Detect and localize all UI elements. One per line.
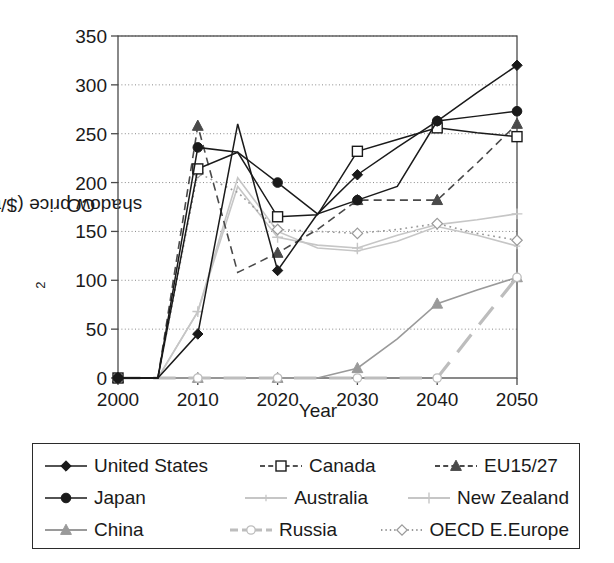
data-point	[273, 178, 283, 188]
legend-item-russia[interactable]: Russia	[228, 520, 379, 540]
data-point	[512, 208, 523, 219]
legend-item-united-states[interactable]: United States	[43, 456, 258, 476]
legend-marker	[276, 461, 286, 471]
legend-symbol	[43, 456, 89, 476]
data-point	[352, 228, 362, 238]
series-line	[118, 128, 517, 378]
y-tick-label-0: 0	[96, 368, 107, 389]
data-point	[273, 374, 281, 382]
legend-symbol	[243, 488, 289, 508]
data-point	[513, 273, 521, 281]
series-line	[118, 277, 517, 378]
legend-row: JapanAustraliaNew Zealand	[43, 482, 569, 514]
data-point	[193, 143, 203, 153]
data-point	[352, 146, 362, 156]
legend-symbol	[433, 456, 479, 476]
data-point	[192, 120, 203, 130]
y-tick-label-100: 100	[75, 270, 107, 291]
data-point	[194, 374, 202, 382]
legend-label: New Zealand	[457, 488, 569, 508]
data-point	[512, 60, 522, 70]
legend-marker	[61, 493, 71, 503]
y-tick-label-150: 150	[75, 221, 107, 242]
legend-item-eu15-27[interactable]: EU15/27	[433, 456, 558, 476]
series-canada	[113, 123, 522, 383]
legend-item-new-zealand[interactable]: New Zealand	[406, 488, 569, 508]
series-line	[118, 124, 517, 378]
y-tick-label-200: 200	[75, 173, 107, 194]
legend-label: China	[94, 520, 144, 540]
legend-item-australia[interactable]: Australia	[243, 488, 406, 508]
legend-marker	[396, 525, 406, 535]
plot-frame	[118, 36, 517, 378]
data-point	[512, 132, 522, 142]
legend-symbol	[43, 488, 89, 508]
legend-marker	[61, 461, 71, 471]
data-point	[352, 243, 363, 254]
data-point	[272, 265, 282, 275]
series-eu15-27	[113, 118, 523, 382]
plot-area-wrapper: CO2 shadow price ($/tC) 0501001502002503…	[0, 0, 614, 430]
legend-marker	[263, 495, 269, 501]
chart-legend: United StatesCanadaEU15/27JapanAustralia…	[32, 443, 580, 549]
legend-item-oecd-e-europe[interactable]: OECD E.Europe	[379, 520, 569, 540]
legend-item-china[interactable]: China	[43, 520, 228, 540]
legend-symbol	[379, 520, 425, 540]
series-line	[118, 178, 517, 378]
data-point	[353, 374, 361, 382]
data-point	[353, 195, 363, 205]
legend-label: Russia	[279, 520, 337, 540]
legend-label: United States	[94, 456, 208, 476]
data-point	[512, 235, 522, 245]
chart-svg: 0501001502002503003502000201020202030204…	[0, 0, 614, 430]
legend-label: OECD E.Europe	[430, 520, 569, 540]
legend-marker	[247, 526, 255, 534]
data-point	[512, 118, 523, 128]
legend-symbol	[258, 456, 304, 476]
legend-label: Canada	[309, 456, 376, 476]
data-point	[273, 212, 283, 222]
chart-figure: CO2 shadow price ($/tC) 0501001502002503…	[0, 0, 614, 563]
legend-marker	[424, 493, 435, 504]
x-axis-label: Year	[118, 400, 518, 422]
legend-label: Japan	[94, 488, 146, 508]
legend-item-canada[interactable]: Canada	[258, 456, 433, 476]
legend-label: Australia	[294, 488, 368, 508]
legend-row: ChinaRussiaOECD E.Europe	[43, 514, 569, 546]
y-tick-label-350: 350	[75, 26, 107, 47]
data-point	[512, 106, 522, 116]
y-tick-label-300: 300	[75, 75, 107, 96]
series-line	[118, 277, 517, 378]
legend-label: EU15/27	[484, 456, 558, 476]
data-point	[433, 374, 441, 382]
y-tick-label-250: 250	[75, 124, 107, 145]
legend-symbol	[228, 520, 274, 540]
legend-item-japan[interactable]: Japan	[43, 488, 243, 508]
y-tick-label-50: 50	[86, 319, 107, 340]
legend-row: United StatesCanadaEU15/27	[43, 450, 569, 482]
data-point	[352, 362, 363, 372]
legend-symbol	[406, 488, 452, 508]
legend-symbol	[43, 520, 89, 540]
